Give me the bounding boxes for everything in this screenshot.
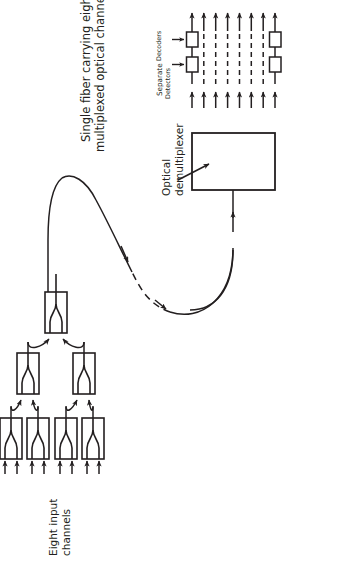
fiber-title-line2: multiplexed optical channels bbox=[94, 0, 108, 152]
coupler-stage3-1 bbox=[45, 292, 67, 333]
coupler-stage2-2 bbox=[73, 353, 95, 394]
decoders-label: Decoders bbox=[156, 31, 164, 61]
input-channel-arrows bbox=[5, 461, 99, 474]
optical-demultiplexer-box bbox=[192, 133, 275, 190]
fiber-into-demux bbox=[190, 190, 233, 310]
link-stage2-to-stage3 bbox=[28, 339, 84, 348]
coupler-stage1-3 bbox=[55, 418, 77, 459]
inputs-label-line2: channels bbox=[60, 509, 72, 556]
coupler-tree bbox=[0, 274, 104, 474]
coupler-stage1-2 bbox=[27, 418, 49, 459]
demux-label-line1: Optical bbox=[160, 159, 172, 196]
link-stage1-to-stage2 bbox=[11, 400, 93, 410]
fiber-title-line1: Single fiber carrying eight bbox=[80, 0, 94, 142]
output-channels-group bbox=[187, 13, 282, 108]
output-channel-8 bbox=[270, 13, 282, 108]
detectors-label: Detectors bbox=[165, 68, 173, 99]
fiber-link-path bbox=[48, 176, 233, 314]
output-channel-1 bbox=[187, 13, 199, 108]
coupler-stage1-4 bbox=[82, 418, 104, 459]
figure-canvas: Single fiber carrying eight multiplexed … bbox=[0, 0, 339, 577]
inputs-label-line1: Eight input bbox=[47, 499, 59, 556]
demux-label-line2: demultiplexer bbox=[173, 124, 185, 197]
coupler-stage1-1 bbox=[0, 418, 22, 459]
fiber-arrowheads bbox=[121, 246, 166, 309]
coupler-stage2-1 bbox=[17, 353, 39, 394]
